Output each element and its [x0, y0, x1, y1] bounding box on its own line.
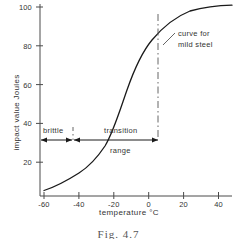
- transition-range-arrow: [74, 137, 158, 142]
- brittle-region-label: brittle: [43, 126, 63, 135]
- figure-container: 100 80 60 40 20 -60 -40 -20 0 20 40 impa…: [0, 0, 237, 239]
- figure-caption: Fig. 4.7: [0, 228, 237, 239]
- y-tick-label-100: 100: [8, 3, 32, 12]
- x-axis-title: temperature °C: [39, 208, 219, 217]
- brittle-range-arrow: [41, 137, 72, 142]
- y-axis-title: impact value Joules: [12, 48, 21, 178]
- annotation-leader-line: [163, 33, 175, 45]
- transition-region-label-line2: range: [110, 146, 131, 155]
- curve-annotation-line1: curve for: [178, 29, 210, 38]
- curve-annotation-line2: mild steel: [178, 40, 213, 49]
- transition-region-label-line1: transition: [104, 126, 137, 135]
